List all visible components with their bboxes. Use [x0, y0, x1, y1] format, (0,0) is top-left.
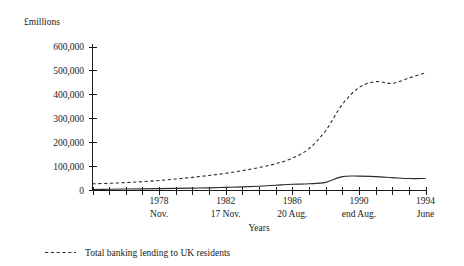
x-axis-tick-label-sub: 20 Aug. [277, 209, 307, 219]
x-axis-tick-label-year: 1978 [150, 196, 169, 206]
x-axis-title: Years [248, 223, 270, 233]
x-axis-tick-label-sub: 17 Nov. [211, 209, 241, 219]
y-axis-tick-label: 600,000 [53, 42, 84, 52]
legend: Total banking lending to UK residents [45, 248, 231, 258]
y-axis-unit-label: £millions [24, 17, 60, 27]
y-axis-tick-label: 100,000 [53, 162, 84, 172]
y-axis-tick-label: 300,000 [53, 114, 84, 124]
y-axis-tick-label: 400,000 [53, 90, 84, 100]
x-axis-tick-label-year: 1986 [283, 196, 302, 206]
x-axis-tick-label-year: 1982 [216, 196, 235, 206]
line-chart: £millions 0100,000200,000300,000400,0005… [0, 0, 464, 266]
x-axis-tick-label-sub: end Aug. [342, 209, 376, 219]
series-line-total-banking-lending [93, 73, 426, 184]
y-axis-tick-labels: 0100,000200,000300,000400,000500,000600,… [53, 42, 84, 196]
x-axis-tick-label-year: 1994 [416, 196, 435, 206]
x-axis-tick-label-year: 1990 [349, 196, 368, 206]
x-axis-tick-labels: 1978Nov.198217 Nov.198620 Aug.1990end Au… [150, 196, 436, 219]
y-axis-tick-label: 500,000 [53, 66, 84, 76]
legend-label-total-banking-lending: Total banking lending to UK residents [85, 248, 231, 258]
chart-figure: £millions 0100,000200,000300,000400,0005… [0, 0, 464, 266]
x-axis-tick-label-sub: June [417, 209, 434, 219]
y-axis-tick-label: 200,000 [53, 138, 84, 148]
y-axis-tick-label: 0 [79, 186, 84, 196]
x-axis-tick-label-sub: Nov. [150, 209, 168, 219]
